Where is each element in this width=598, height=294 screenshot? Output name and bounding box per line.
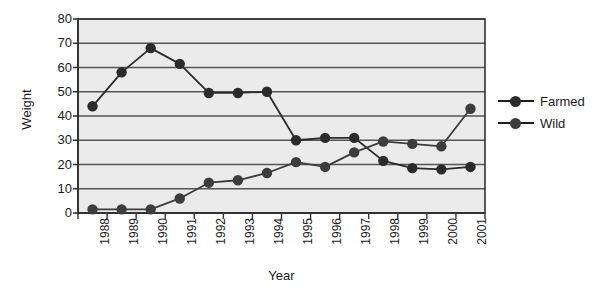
data-point [145,204,155,214]
data-point [262,168,272,178]
x-tick-label: 1988 [99,218,111,264]
x-tick-label: 2000 [447,218,459,264]
data-point [116,67,126,77]
data-point [378,156,388,166]
data-point [320,133,330,143]
legend-marker-icon [498,117,534,129]
data-point [465,162,475,172]
data-point [349,133,359,143]
data-point [145,43,155,53]
data-point [87,204,97,214]
data-point [291,157,301,167]
legend-marker-icon [498,95,534,107]
plot-area [0,0,598,294]
data-point [378,136,388,146]
data-point [407,139,417,149]
x-tick-label: 1994 [273,218,285,264]
data-point [233,88,243,98]
data-point [349,147,359,157]
x-tick-label: 1999 [418,218,430,264]
line-chart: Weight 80706050403020100 198819891990199… [0,0,598,294]
data-point [204,177,214,187]
legend-label: Farmed [540,95,585,108]
x-tick-label: 1996 [331,218,343,264]
legend-dot-icon [510,118,521,129]
data-point [436,141,446,151]
x-tick-label: 1995 [302,218,314,264]
data-point [175,193,185,203]
data-point [465,104,475,114]
data-point [204,88,214,98]
x-tick-label: 1992 [215,218,227,264]
legend-label: Wild [540,117,565,130]
data-point [436,164,446,174]
data-point [320,162,330,172]
chart-legend: FarmedWild [498,90,598,134]
x-axis-title: Year [78,268,485,283]
x-tick-label: 1990 [157,218,169,264]
x-tick-label: 1997 [360,218,372,264]
data-point [291,135,301,145]
x-tick-label: 2001 [476,218,488,264]
legend-item-farmed[interactable]: Farmed [498,90,598,112]
data-point [116,204,126,214]
data-point [233,175,243,185]
data-point [175,59,185,69]
x-tick-label: 1991 [186,218,198,264]
data-point [262,87,272,97]
x-tick-label: 1998 [389,218,401,264]
data-point [407,163,417,173]
x-tick-label: 1989 [128,218,140,264]
legend-dot-icon [510,96,521,107]
x-tick-label: 1993 [244,218,256,264]
data-point [87,101,97,111]
legend-item-wild[interactable]: Wild [498,112,598,134]
